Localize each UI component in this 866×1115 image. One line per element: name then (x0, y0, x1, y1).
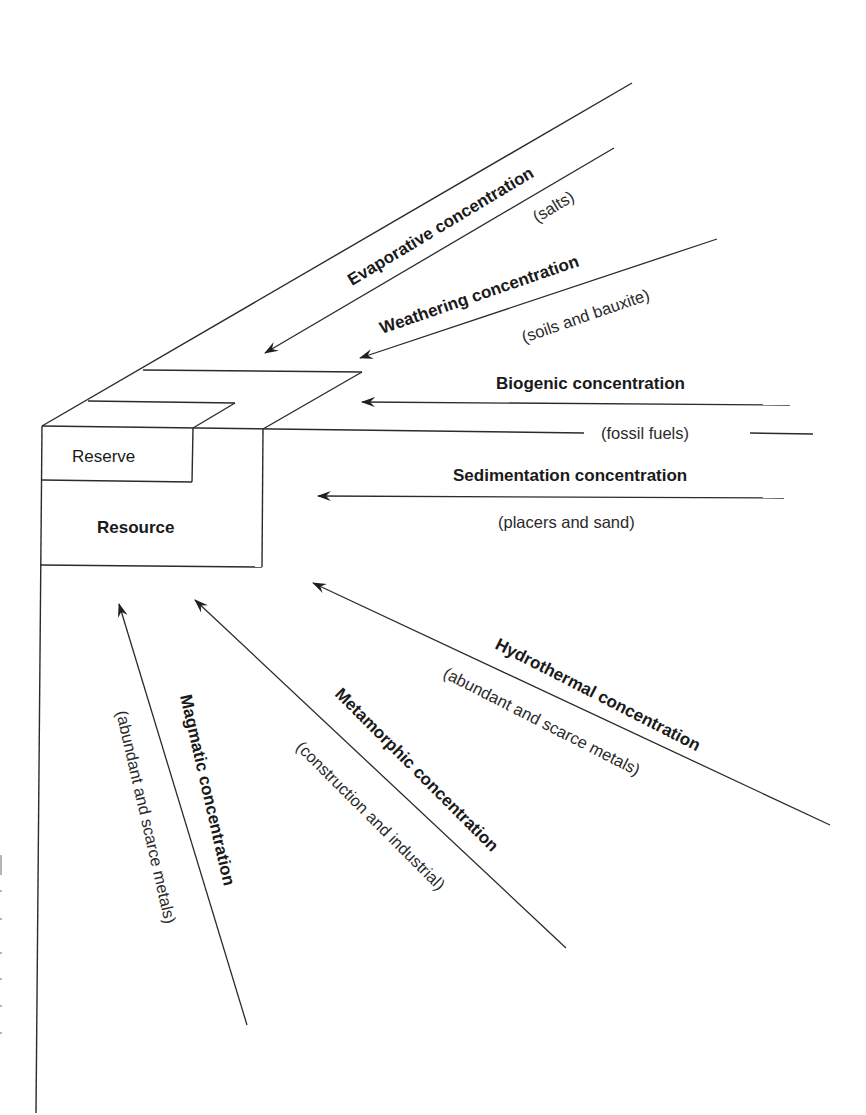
mineral-concentration-diagram: Reserve Resource Evaporative concentrati… (0, 0, 866, 1115)
hydrothermal-examples: (abundant and scarce metals) (441, 664, 644, 779)
scan-artifacts (0, 855, 2, 1034)
weathering-examples: (soils and bauxite) (519, 285, 651, 346)
process-weathering: Weathering concentration (soils and baux… (360, 239, 717, 358)
reserve-top-right-diag (193, 403, 235, 428)
evaporative-label: Evaporative concentration (344, 163, 537, 289)
reserve-bottom-edge (42, 480, 192, 482)
front-top-edge (42, 426, 584, 433)
evaporative-examples: (salts) (529, 187, 577, 226)
reserve-label: Reserve (72, 447, 135, 466)
resource-label: Resource (97, 518, 174, 537)
biogenic-arrow (362, 402, 790, 405)
magmatic-label: Magmatic concentration (176, 693, 239, 888)
process-magmatic: Magmatic concentration (abundant and sca… (113, 604, 247, 1025)
resource-bottom-edge (40, 565, 262, 567)
sedimentation-arrow (318, 496, 784, 498)
process-hydrothermal: Hydrothermal concentration (abundant and… (313, 583, 830, 825)
reserve-right-edge (192, 428, 193, 482)
resource-top-back-edge (143, 370, 362, 372)
resource-top-right-diag (263, 372, 362, 429)
hydrothermal-label: Hydrothermal concentration (492, 635, 703, 755)
hydrothermal-arrow (313, 583, 830, 825)
resource-right-edge (262, 429, 263, 567)
left-axis-line (36, 426, 42, 1113)
process-sedimentation: Sedimentation concentration (placers and… (318, 466, 784, 531)
reserve-top-back-edge (88, 401, 235, 403)
magmatic-examples: (abundant and scarce metals) (113, 709, 180, 926)
fossil-fuels-line-right (750, 433, 813, 434)
biogenic-examples: (fossil fuels) (601, 424, 689, 442)
sedimentation-label: Sedimentation concentration (453, 466, 687, 485)
metamorphic-label: Metamorphic concentration (331, 684, 502, 855)
sedimentation-examples: (placers and sand) (498, 513, 635, 531)
process-biogenic: Biogenic concentration (fossil fuels) (362, 374, 790, 442)
biogenic-label: Biogenic concentration (496, 374, 685, 393)
